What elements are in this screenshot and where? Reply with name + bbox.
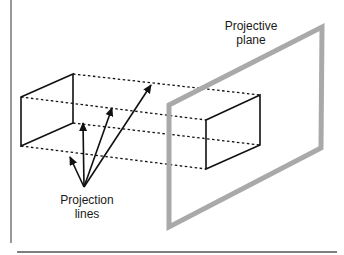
projection-arrow-icon — [84, 85, 151, 187]
projection-lines-label-line1: Projection — [57, 193, 117, 207]
source-rectangle — [21, 74, 73, 146]
projection-arrow-icon — [83, 123, 84, 187]
projective-plane — [169, 27, 322, 227]
rectangles — [21, 74, 260, 169]
projection-arrow-icon — [84, 108, 112, 187]
dashed-projection-paths — [21, 74, 260, 169]
projective-plane-outline — [169, 27, 322, 227]
dashed-projection-path — [21, 146, 206, 169]
projective-plane-label-line2: plane — [221, 33, 281, 47]
projection-lines-label-line2: lines — [57, 207, 117, 221]
projected-rectangle — [206, 95, 260, 169]
projective-plane-label: Projective plane — [221, 19, 281, 47]
dashed-projection-path — [73, 74, 260, 95]
projection-lines-label: Projection lines — [57, 193, 117, 221]
projection-diagram — [0, 0, 344, 255]
projection-line-arrows — [70, 85, 151, 187]
projective-plane-label-line1: Projective — [221, 19, 281, 33]
projection-arrow-icon — [70, 157, 84, 187]
